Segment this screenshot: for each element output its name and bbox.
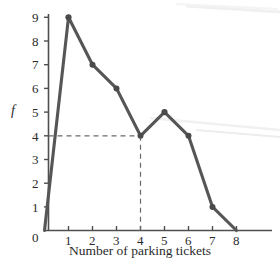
- y-tick-label-5: 5: [32, 106, 39, 119]
- y-tick-label-4: 4: [32, 130, 39, 143]
- dashed-reference-guides: [49, 136, 141, 231]
- y-tick-label-9: 9: [32, 11, 39, 24]
- data-point: [65, 14, 71, 20]
- data-point: [210, 204, 216, 210]
- y-axis-label: f: [11, 104, 15, 118]
- data-point: [114, 85, 120, 91]
- y-tick-label-2: 2: [32, 177, 39, 190]
- x-axis-title: Number of parking tickets: [0, 244, 280, 258]
- chart-figure: 9 8 7 6 5 4 3 2 1 0 1 2 3 4 5 6 7 8 f Nu…: [0, 0, 280, 262]
- y-tick-label-8: 8: [32, 35, 39, 48]
- y-tick-label-0: 0: [32, 231, 39, 244]
- y-tick-label-7: 7: [32, 58, 39, 71]
- y-tick-label-3: 3: [32, 153, 39, 166]
- y-tick-label-1: 1: [32, 201, 39, 214]
- data-point: [138, 133, 144, 139]
- data-point: [161, 109, 167, 115]
- y-tick-label-6: 6: [32, 82, 39, 95]
- data-point-markers: [65, 14, 215, 210]
- data-point: [90, 62, 96, 68]
- data-point: [186, 133, 192, 139]
- frequency-polygon-plot: [0, 0, 280, 262]
